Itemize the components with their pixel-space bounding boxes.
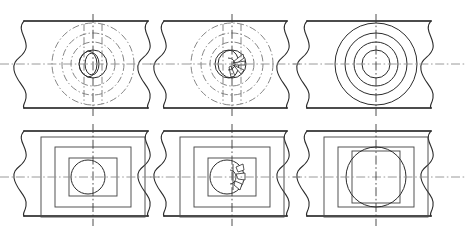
vane-2 xyxy=(236,173,245,180)
break-line-right xyxy=(277,21,289,108)
break-line-left xyxy=(154,21,166,108)
break-line-left xyxy=(297,131,309,216)
break-line-right xyxy=(421,131,433,216)
vane-1 xyxy=(236,164,244,172)
break-line-right xyxy=(421,21,433,108)
vane-3 xyxy=(234,181,242,190)
top-left-view xyxy=(0,14,160,116)
bottom-left-view xyxy=(0,124,160,226)
break-line-left xyxy=(14,21,26,108)
drawing-sheet xyxy=(0,0,466,242)
break-line-right xyxy=(138,131,150,216)
top-middle-view xyxy=(150,14,300,116)
break-line-left xyxy=(154,131,166,216)
bottom-right-view xyxy=(293,124,466,226)
break-line-right xyxy=(277,131,289,216)
break-line-left xyxy=(14,131,26,216)
bottom-middle-view xyxy=(150,124,300,226)
top-right-view xyxy=(293,14,466,116)
break-line-right xyxy=(138,21,150,108)
break-line-left xyxy=(297,21,309,108)
engineering-drawing-canvas xyxy=(0,0,466,242)
